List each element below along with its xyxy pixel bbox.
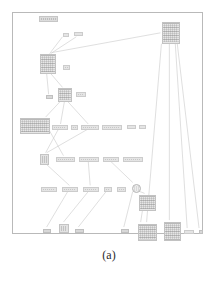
graph-node-row3-e[interactable] — [117, 187, 126, 192]
node-label-text — [106, 189, 110, 190]
graph-edge-n-row3-c-to-n-leaf-b2 — [63, 190, 89, 222]
graph-edge-n-small-tbl-to-n-row1-a — [60, 101, 64, 124]
graph-edge-n-right-tbl-1-to-n-right-tbl-2 — [141, 209, 143, 222]
graph-node-row1-e[interactable] — [127, 125, 136, 129]
graph-node-mid-upper[interactable] — [40, 54, 56, 74]
node-label-text — [42, 156, 47, 163]
node-label-text — [64, 189, 76, 190]
graph-edge-n-small-tbl-to-n-big-left — [46, 101, 61, 117]
node-label-text — [104, 127, 120, 128]
graph-node-leaf-b6[interactable] — [199, 230, 203, 234]
graph-node-edge-lbl-1[interactable] — [63, 33, 69, 37]
graph-node-leaf-b4[interactable] — [121, 229, 129, 233]
graph-node-mid-small[interactable] — [40, 154, 49, 165]
node-label-text — [164, 24, 178, 42]
graph-node-right-tbl-1[interactable] — [139, 195, 156, 211]
node-label-text — [42, 56, 54, 72]
node-label-text — [43, 189, 55, 190]
diagram-frame — [12, 12, 203, 234]
node-label-text — [41, 18, 56, 20]
node-label-text — [61, 226, 67, 231]
graph-node-title[interactable] — [39, 16, 58, 22]
graph-node-leaf-b1[interactable] — [43, 229, 51, 233]
graph-node-row3-a[interactable] — [41, 187, 57, 192]
graph-node-lbl-right-1[interactable] — [63, 65, 70, 70]
graph-node-row1-f[interactable] — [139, 125, 146, 129]
graph-edge-n-mid-small-to-n-row3-b — [46, 164, 70, 186]
node-label-text — [22, 120, 48, 132]
graph-node-join-circle[interactable] — [132, 184, 141, 193]
graph-edge-n-edge-lbl-2-to-n-mid-upper — [51, 37, 77, 54]
graph-node-row2-a[interactable] — [56, 157, 75, 162]
graph-node-big-left[interactable] — [20, 118, 50, 134]
node-label-text — [81, 159, 97, 160]
node-label-text — [141, 197, 154, 209]
node-label-text — [54, 127, 66, 128]
node-label-text — [58, 159, 73, 160]
graph-edge-n-row1-c-to-n-mid-small — [47, 129, 89, 153]
graph-edge-n-big-left-to-n-row2-a — [50, 131, 64, 156]
node-label-text — [85, 189, 97, 190]
node-label-text — [140, 226, 155, 239]
graph-node-row3-b[interactable] — [62, 187, 78, 192]
graph-node-row1-d[interactable] — [102, 125, 122, 130]
graph-node-lbl-hl[interactable] — [76, 92, 86, 97]
node-label-text — [78, 94, 84, 95]
graph-edge-n-top-right-to-n-leaf-b6 — [177, 44, 199, 228]
graph-node-far-tbl[interactable] — [164, 222, 181, 241]
graph-edge-n-row2-c-to-n-join-circle — [110, 161, 133, 183]
graph-edge-n-row3-d-to-n-leaf-b3 — [78, 190, 107, 227]
node-label-text — [125, 159, 141, 160]
graph-node-row3-c[interactable] — [83, 187, 99, 192]
graph-node-leaf-left-1[interactable] — [46, 95, 53, 99]
graph-edge-n-mid-upper-to-n-small-tbl — [51, 73, 63, 87]
graph-node-right-tbl-2[interactable] — [138, 224, 157, 241]
graph-node-leaf-b5[interactable] — [184, 230, 194, 234]
node-label-text — [65, 67, 68, 68]
graph-node-edge-lbl-2[interactable] — [74, 32, 83, 36]
graph-node-row1-b[interactable] — [71, 125, 78, 130]
graph-edge-n-join-circle-to-n-leaf-b4 — [124, 191, 133, 227]
graph-node-row3-d[interactable] — [104, 187, 112, 192]
figure-caption: (a) — [0, 248, 218, 263]
graph-node-row2-d[interactable] — [123, 157, 143, 162]
graph-edge-n-mid-upper-to-n-leaf-left-1 — [47, 73, 49, 94]
node-label-text — [73, 127, 76, 128]
graph-node-row2-c[interactable] — [103, 157, 119, 162]
graph-edge-n-row3-b-to-n-leaf-b1 — [47, 190, 69, 227]
node-label-text — [105, 159, 117, 160]
graph-node-leaf-b2[interactable] — [59, 224, 69, 233]
graph-node-leaf-b3[interactable] — [75, 229, 84, 233]
node-label-text — [134, 186, 139, 191]
node-label-text — [60, 90, 70, 100]
graph-node-small-tbl[interactable] — [58, 88, 72, 102]
node-label-text — [166, 224, 179, 239]
node-label-text — [83, 127, 97, 128]
node-label-text — [119, 189, 124, 190]
graph-node-row1-a[interactable] — [52, 125, 68, 130]
graph-node-row1-c[interactable] — [81, 125, 99, 130]
graph-edge-n-row2-b-to-n-row3-c — [88, 161, 90, 186]
graph-edge-n-top-right-to-n-leaf-b5 — [175, 44, 187, 228]
graph-edge-n-small-tbl-to-n-row1-c — [67, 101, 88, 124]
figure-root: (a) Graph diagram of nodes connected by … — [0, 0, 218, 283]
graph-node-row2-b[interactable] — [79, 157, 99, 162]
graph-node-top-right[interactable] — [162, 22, 180, 44]
figure-alt-text: Graph diagram of nodes connected by edge… — [0, 0, 1, 1]
